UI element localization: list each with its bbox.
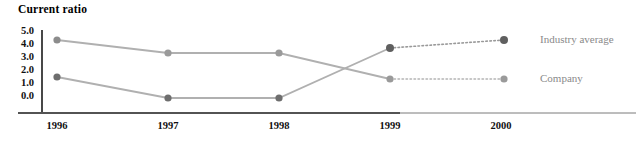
x-tick-label-1998: 1998 (254, 120, 304, 131)
data-point (53, 36, 60, 43)
y-tick-label-0: 0.0 (10, 90, 34, 101)
chart-figure: Current ratio 5.0 4.0 3.0 (0, 0, 638, 150)
data-point (164, 94, 171, 101)
y-tick-label-2: 2.0 (10, 64, 34, 75)
series-label-industry-average: Industry average (540, 33, 614, 45)
x-tick-label-2000: 2000 (476, 120, 526, 131)
data-point (500, 36, 508, 44)
data-point (164, 49, 171, 56)
series-industry-average-solid-line (57, 48, 390, 98)
data-point (386, 75, 393, 82)
data-point (386, 44, 394, 52)
y-tick-label-3: 3.0 (10, 51, 34, 62)
y-tick-label-1: 1.0 (10, 77, 34, 88)
x-tick-label-1999: 1999 (365, 120, 415, 131)
x-tick-label-1996: 1996 (32, 120, 82, 131)
data-point (275, 94, 282, 101)
series-industry-average-forecast-line (390, 40, 504, 48)
series-label-company: Company (540, 72, 583, 84)
y-tick-label-5: 5.0 (10, 25, 34, 36)
data-point (275, 49, 282, 56)
series-company-solid-line (57, 40, 390, 79)
data-point (53, 73, 60, 80)
series-company (53, 36, 507, 82)
y-tick-label-4: 4.0 (10, 38, 34, 49)
data-point (500, 75, 507, 82)
x-tick-label-1997: 1997 (143, 120, 193, 131)
series-industry-average (53, 36, 508, 102)
